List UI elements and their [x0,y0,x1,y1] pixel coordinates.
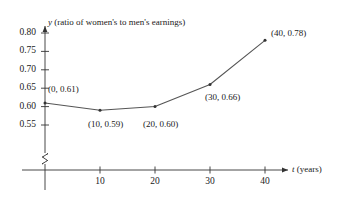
chart-figure: y (ratio of women's to men's earnings) t… [0,0,340,206]
point-annotation-20: (20, 0.60) [143,120,178,129]
point-annotation-30: (30, 0.66) [205,93,240,102]
x-axis-arrow-icon [282,168,288,173]
x-tick-label-30: 30 [198,177,222,187]
y-tick-label-070: 0.70 [8,65,36,75]
x-axis-description: (years) [297,164,322,174]
x-tick-label-10: 10 [88,177,112,187]
point-annotation-10: (10, 0.59) [88,120,123,129]
y-tick-label-055: 0.55 [8,120,36,130]
y-axis-variable: y [48,17,52,27]
y-axis-description: (ratio of women's to men's earnings) [54,17,185,27]
y-tick-label-065: 0.65 [8,83,36,93]
point-annotation-0: (0, 0.61) [48,85,79,94]
data-point-30[interactable] [209,83,212,86]
x-axis-title: t (years) [292,165,322,174]
x-tick-label-20: 20 [143,177,167,187]
y-axis-break-stroke [42,154,48,165]
y-axis-title: y (ratio of women's to men's earnings) [48,18,185,27]
y-tick-label-060: 0.60 [8,102,36,112]
data-point-10[interactable] [99,109,102,112]
x-axis-variable: t [292,164,295,174]
data-point-0[interactable] [44,101,47,104]
x-tick-label-40: 40 [253,177,277,187]
point-annotation-40: (40, 0.78) [271,29,306,38]
y-tick-label-080: 0.80 [8,28,36,38]
data-point-20[interactable] [154,105,157,108]
y-tick-label-075: 0.75 [8,46,36,56]
y-axis-arrow-icon [43,26,48,32]
data-point-40[interactable] [264,39,267,42]
